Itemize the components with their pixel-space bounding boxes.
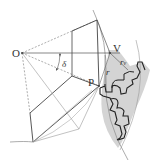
point-P	[98, 85, 100, 87]
label-rv: rv	[120, 58, 126, 67]
base-arc	[10, 142, 33, 143]
label-delta: δ	[62, 60, 66, 69]
label-r: r	[106, 68, 110, 77]
point-V	[109, 52, 111, 54]
slant-top-V	[97, 20, 110, 53]
bottom-to-P-curve	[33, 90, 92, 142]
inner-to-P	[72, 76, 99, 86]
cone-top-edge	[72, 20, 97, 31]
bottom-to-lower	[33, 129, 79, 142]
rect-left-side	[30, 113, 33, 142]
bevel-gear-virtual-gear-diagram	[0, 0, 155, 164]
label-P: P	[88, 77, 94, 88]
delta-arrow-top	[59, 54, 61, 57]
label-O: O	[12, 48, 20, 59]
label-rv-subscript: v	[124, 60, 127, 66]
rect-upper-diag	[30, 76, 72, 113]
label-V: V	[113, 43, 121, 54]
point-O	[21, 52, 23, 54]
